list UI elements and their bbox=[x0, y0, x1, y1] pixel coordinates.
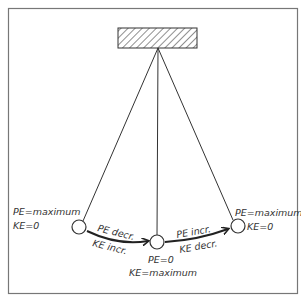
bob-left bbox=[72, 220, 86, 234]
string-left bbox=[83, 48, 158, 221]
arrow-right-top-label: PE incr. bbox=[175, 223, 211, 240]
right-ke-label: KE=0 bbox=[247, 221, 273, 232]
ceiling-support bbox=[118, 28, 197, 48]
middle-ke-label: KE=maximum bbox=[129, 267, 197, 278]
frame-border bbox=[9, 9, 298, 294]
bob-right bbox=[231, 219, 245, 233]
string-right bbox=[158, 48, 233, 220]
pendulum-diagram: PE=maximum KE=0 PE decr. KE incr. PE=0 K… bbox=[0, 0, 301, 300]
left-ke-label: KE=0 bbox=[13, 220, 39, 231]
left-pe-label: PE=maximum bbox=[13, 206, 81, 217]
middle-pe-label: PE=0 bbox=[148, 254, 174, 265]
right-pe-label: PE=maximum bbox=[235, 207, 301, 218]
bob-middle bbox=[150, 235, 164, 249]
string-middle bbox=[157, 48, 158, 235]
